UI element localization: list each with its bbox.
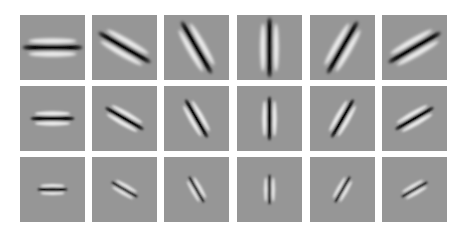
gabor-tile-r3-c1 <box>20 157 85 222</box>
gabor-tile-r2-c6 <box>382 86 447 151</box>
gabor-tile-r1-c5 <box>310 15 375 80</box>
gabor-tile-r1-c1 <box>20 15 85 80</box>
gabor-tile-r3-c2 <box>92 157 157 222</box>
gabor-tile-r3-c5 <box>310 157 375 222</box>
gabor-tile-r1-c6 <box>382 15 447 80</box>
gabor-tile-r2-c1 <box>20 86 85 151</box>
gabor-tile-r3-c3 <box>164 157 229 222</box>
gabor-tile-r2-c5 <box>310 86 375 151</box>
gabor-filter-grid <box>20 15 448 222</box>
gabor-tile-r2-c2 <box>92 86 157 151</box>
gabor-tile-r1-c2 <box>92 15 157 80</box>
gabor-tile-r3-c6 <box>382 157 447 222</box>
gabor-tile-r1-c4 <box>237 15 302 80</box>
gabor-tile-r2-c3 <box>164 86 229 151</box>
gabor-tile-r1-c3 <box>164 15 229 80</box>
gabor-tile-r3-c4 <box>237 157 302 222</box>
gabor-tile-r2-c4 <box>237 86 302 151</box>
